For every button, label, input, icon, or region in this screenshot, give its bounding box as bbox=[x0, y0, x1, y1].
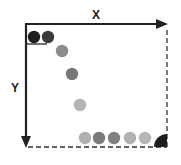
bottom-circle bbox=[139, 132, 151, 144]
bottom-circle bbox=[108, 132, 120, 144]
x-axis-arrow-icon bbox=[156, 19, 168, 29]
top-left-circle bbox=[42, 31, 54, 43]
bottom-circle bbox=[93, 132, 105, 144]
top-left-circle bbox=[28, 31, 40, 43]
x-axis-label: X bbox=[92, 9, 100, 21]
coordinate-diagram bbox=[0, 0, 181, 165]
y-axis-arrow-icon bbox=[21, 136, 31, 148]
circle-group bbox=[28, 31, 151, 144]
diagonal-circle bbox=[66, 68, 78, 80]
diagonal-circle bbox=[74, 99, 86, 111]
corner-wedge bbox=[154, 134, 167, 147]
diagonal-circle bbox=[56, 45, 68, 57]
y-axis-label: Y bbox=[11, 82, 19, 94]
bottom-circle bbox=[79, 132, 91, 144]
bottom-circle bbox=[124, 132, 136, 144]
